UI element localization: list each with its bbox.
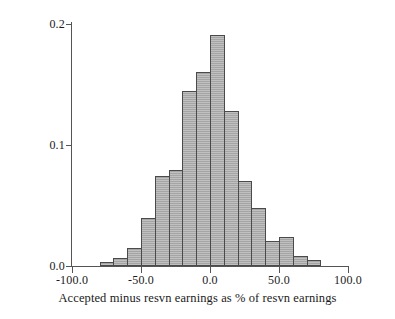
x-axis-tick-label--100: -100.0: [56, 274, 88, 287]
histogram-bar: [307, 260, 322, 266]
histogram-bar: [155, 176, 170, 266]
histogram-bar: [279, 237, 294, 266]
y-axis-tick-label-0.1: 0.1: [49, 139, 65, 151]
histogram-bar: [182, 91, 197, 266]
histogram-bar: [210, 35, 225, 266]
x-axis-tick-label--50: -50.0: [128, 274, 154, 287]
histogram-bar: [265, 241, 280, 266]
histogram-bar: [127, 248, 142, 266]
histogram-bar: [113, 258, 128, 266]
plot-area: [72, 24, 348, 266]
histogram-bar: [100, 262, 115, 266]
x-axis-title: Accepted minus resvn earnings as % of re…: [0, 291, 395, 305]
x-axis-tick-label-50: 50.0: [268, 274, 290, 287]
histogram-bar: [224, 111, 239, 266]
histogram-bar: [238, 181, 253, 266]
x-axis-tick-label-0: 0.0: [202, 274, 218, 287]
histogram-figure: Fraction 0.2 0.1 0.0 -100.0 -50.0 0.0 50…: [0, 0, 395, 319]
histogram-bar: [251, 208, 266, 266]
histogram-bar: [169, 170, 184, 266]
y-axis-tick-label-0.0: 0.0: [49, 260, 65, 272]
histogram-bar: [196, 72, 211, 266]
histogram-bar: [293, 256, 308, 266]
y-axis-tick-label-0.2: 0.2: [49, 18, 65, 30]
histogram-bar: [141, 218, 156, 266]
x-axis-tick-label-100: 100.0: [334, 274, 362, 287]
